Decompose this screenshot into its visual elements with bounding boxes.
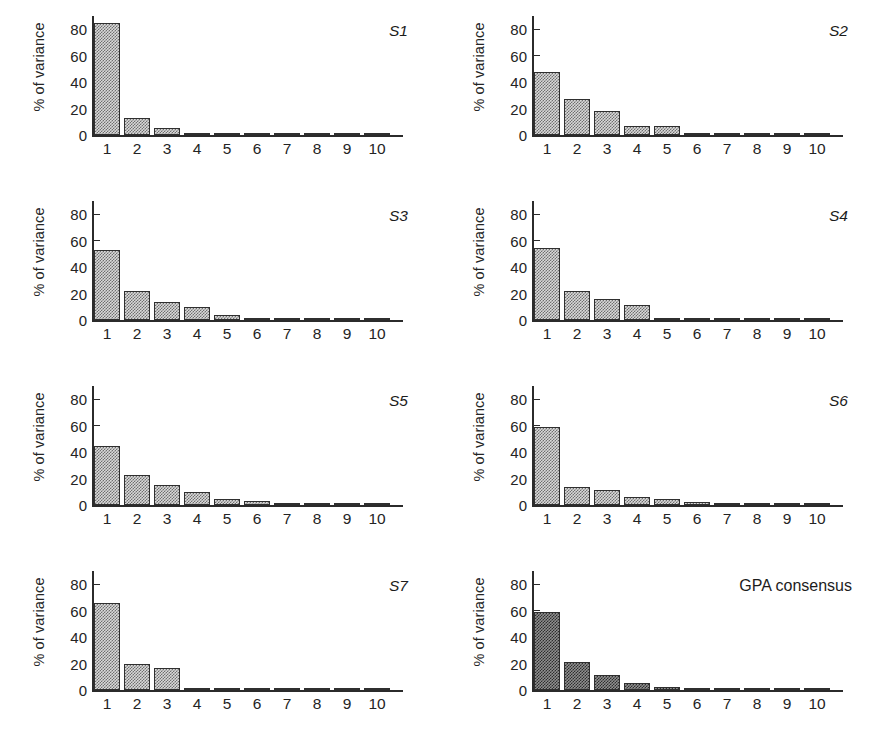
- y-axis-tick-label: 60: [70, 47, 87, 64]
- x-axis-tick-label: 4: [633, 325, 642, 343]
- x-axis-tick-label: 2: [133, 695, 142, 713]
- chart-panel-s4: % of variance02040608012345678910S4: [458, 189, 878, 365]
- y-axis-label: % of variance: [31, 187, 47, 317]
- bar: [774, 688, 800, 690]
- x-axis-tick-label: 5: [223, 140, 232, 158]
- x-axis-tick-label: 9: [343, 695, 352, 713]
- bar: [184, 133, 210, 135]
- x-axis-tick-label: 9: [783, 325, 792, 343]
- bar: [534, 72, 560, 135]
- x-axis-tick-label: 3: [163, 325, 172, 343]
- bar: [564, 662, 590, 690]
- x-axis-tick-label: 2: [133, 325, 142, 343]
- y-axis-tick-label: 0: [79, 682, 87, 699]
- x-axis-tick-label: 5: [663, 325, 672, 343]
- y-axis-tick-label: 80: [70, 391, 87, 408]
- y-axis-label: % of variance: [471, 2, 487, 132]
- x-axis-tick-label: 7: [723, 325, 732, 343]
- panel-title: GPA consensus: [739, 577, 852, 595]
- bar: [684, 318, 710, 320]
- bar: [154, 128, 180, 135]
- chart-panel-s5: % of variance02040608012345678910S5: [18, 374, 438, 550]
- bar: [214, 133, 240, 135]
- y-axis-tick-label: 40: [510, 444, 527, 461]
- bar: [244, 688, 270, 690]
- bar: [334, 688, 360, 690]
- y-axis-tick-label: 60: [510, 602, 527, 619]
- panel-title: S1: [389, 22, 408, 40]
- x-axis-tick-label: 5: [663, 510, 672, 528]
- bar: [534, 427, 560, 505]
- y-axis-label: % of variance: [471, 187, 487, 317]
- panel-title: S7: [389, 577, 408, 595]
- x-axis-tick-label: 8: [313, 140, 322, 158]
- y-axis-tick-label: 0: [519, 497, 527, 514]
- x-axis-line: [532, 505, 843, 507]
- y-axis-tick-label: 20: [70, 285, 87, 302]
- bar: [594, 111, 620, 135]
- x-axis-tick-label: 6: [253, 695, 262, 713]
- bar: [94, 603, 120, 690]
- y-axis-tick-label: 60: [70, 417, 87, 434]
- bar: [684, 688, 710, 690]
- x-axis-tick-label: 8: [313, 695, 322, 713]
- plot-area: 02040608012345678910: [532, 386, 832, 505]
- bar: [774, 503, 800, 505]
- bar: [744, 688, 770, 690]
- bar: [654, 126, 680, 135]
- x-axis-tick-label: 10: [808, 325, 825, 343]
- bar: [534, 248, 560, 320]
- bar: [364, 688, 390, 690]
- bar: [624, 126, 650, 135]
- bar: [624, 683, 650, 690]
- bar: [304, 503, 330, 505]
- x-axis-tick-label: 4: [633, 695, 642, 713]
- bar: [274, 503, 300, 505]
- x-axis-tick-label: 3: [163, 510, 172, 528]
- bar: [744, 503, 770, 505]
- x-axis-tick-label: 10: [808, 695, 825, 713]
- y-axis-tick-label: 20: [70, 100, 87, 117]
- x-axis-tick-label: 4: [193, 695, 202, 713]
- x-axis-tick-label: 5: [223, 325, 232, 343]
- x-axis-tick-label: 10: [368, 695, 385, 713]
- bar-series: [92, 16, 392, 135]
- bar: [364, 318, 390, 320]
- y-axis-tick-label: 0: [519, 127, 527, 144]
- y-axis-tick-label: 20: [510, 100, 527, 117]
- bar: [654, 318, 680, 320]
- panel-title: S2: [829, 22, 848, 40]
- plot-area: 02040608012345678910: [92, 571, 392, 690]
- y-axis-tick-label: 60: [510, 47, 527, 64]
- x-axis-tick-label: 7: [283, 325, 292, 343]
- x-axis-tick-label: 10: [808, 510, 825, 528]
- plot-area: 02040608012345678910: [532, 201, 832, 320]
- x-axis-tick-label: 6: [693, 325, 702, 343]
- x-axis-tick-label: 5: [663, 695, 672, 713]
- bar: [94, 446, 120, 506]
- bar: [594, 490, 620, 505]
- y-axis-tick-label: 40: [70, 444, 87, 461]
- plot-area: 02040608012345678910: [92, 16, 392, 135]
- y-axis-tick-label: 80: [510, 391, 527, 408]
- bar: [564, 99, 590, 135]
- x-axis-tick-label: 8: [753, 695, 762, 713]
- x-axis-tick-label: 8: [753, 140, 762, 158]
- x-axis-tick-label: 3: [163, 140, 172, 158]
- x-axis-tick-label: 6: [693, 695, 702, 713]
- x-axis-tick-label: 9: [783, 695, 792, 713]
- x-axis-tick-label: 2: [573, 140, 582, 158]
- bar: [684, 133, 710, 135]
- bar: [714, 688, 740, 690]
- bar: [274, 318, 300, 320]
- bar: [94, 23, 120, 135]
- bar: [184, 307, 210, 320]
- chart-panel-s1: % of variance02040608012345678910S1: [18, 4, 438, 180]
- bar: [594, 299, 620, 320]
- bar: [714, 318, 740, 320]
- x-axis-tick-label: 2: [573, 510, 582, 528]
- bar: [154, 485, 180, 505]
- y-axis-tick-label: 0: [79, 312, 87, 329]
- x-axis-tick-label: 9: [343, 140, 352, 158]
- y-axis-tick-label: 20: [70, 470, 87, 487]
